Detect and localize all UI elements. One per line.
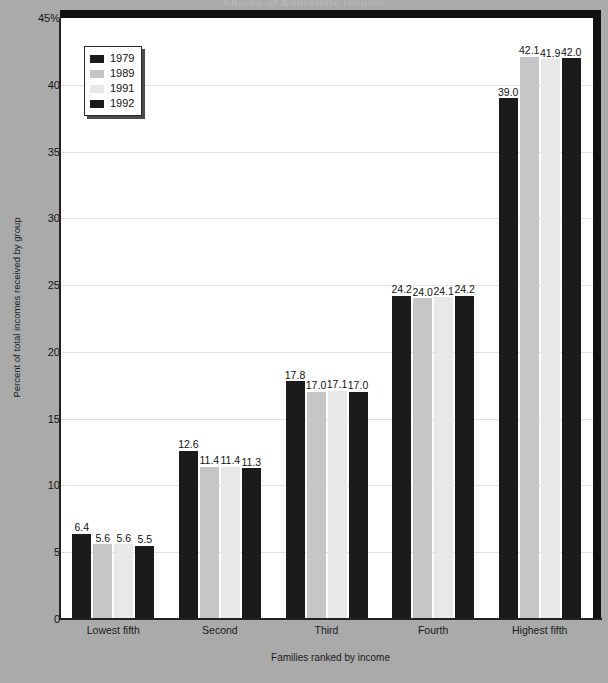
bar-value-label: 24.2 <box>391 284 411 295</box>
bar[interactable]: 11.4 <box>221 467 240 619</box>
bar[interactable]: 39.0 <box>499 98 518 619</box>
bar-group: 39.042.141.942.0 <box>499 18 581 619</box>
legend-item[interactable]: 1979 <box>90 51 134 66</box>
bar-group: 24.224.024.124.2 <box>392 18 474 619</box>
bar[interactable]: 42.1 <box>520 57 539 619</box>
bar-value-label: 24.1 <box>433 286 453 297</box>
bar[interactable]: 17.1 <box>328 391 347 619</box>
x-axis-line <box>59 618 602 620</box>
legend-label: 1991 <box>110 83 134 94</box>
x-axis-title: Families ranked by income <box>60 652 601 663</box>
legend-label: 1979 <box>110 53 134 64</box>
chart-title: Shares of Aggregate Income <box>0 0 608 6</box>
x-category-label: Highest fifth <box>512 624 567 636</box>
y-tick-label: 45% <box>38 12 60 24</box>
bar[interactable]: 42.0 <box>562 58 581 619</box>
bar-value-label: 11.4 <box>221 455 241 466</box>
legend-item[interactable]: 1991 <box>90 81 134 96</box>
bar-value-label: 5.5 <box>137 534 152 545</box>
bar-value-label: 11.4 <box>200 455 220 466</box>
bar[interactable]: 11.3 <box>242 468 261 619</box>
legend-swatch-icon <box>90 70 104 78</box>
bar-value-label: 17.0 <box>306 380 326 391</box>
bar[interactable]: 12.6 <box>179 451 198 619</box>
bar[interactable]: 24.1 <box>434 297 453 619</box>
legend-item[interactable]: 1992 <box>90 96 134 111</box>
bar-value-label: 6.4 <box>74 522 89 533</box>
bar[interactable]: 17.0 <box>307 392 326 619</box>
bar-value-label: 24.2 <box>454 284 474 295</box>
bar[interactable]: 5.6 <box>93 544 112 619</box>
legend-label: 1989 <box>110 68 134 79</box>
bar-value-label: 24.0 <box>412 287 432 298</box>
bar-value-label: 42.1 <box>519 45 539 56</box>
bar[interactable]: 17.0 <box>349 392 368 619</box>
bar[interactable]: 5.6 <box>114 544 133 619</box>
x-category-label: Lowest fifth <box>87 624 140 636</box>
legend-swatch-icon <box>90 100 104 108</box>
bar-group: 17.817.017.117.0 <box>286 18 368 619</box>
bar-group: 12.611.411.411.3 <box>179 18 261 619</box>
y-axis-title-text: Percent of total incomes received by gro… <box>11 217 22 397</box>
y-axis-title: Percent of total incomes received by gro… <box>8 0 24 615</box>
bar-value-label: 5.6 <box>116 533 131 544</box>
bar-value-label: 42.0 <box>561 47 581 58</box>
bar-value-label: 39.0 <box>498 87 518 98</box>
y-axis-tick-labels: 051015202530354045% <box>24 0 60 683</box>
bar-value-label: 17.0 <box>348 380 368 391</box>
bar[interactable]: 24.2 <box>455 296 474 619</box>
legend-swatch-icon <box>90 85 104 93</box>
legend-item[interactable]: 1989 <box>90 66 134 81</box>
bar[interactable]: 5.5 <box>135 546 154 619</box>
bar-value-label: 11.3 <box>242 457 262 468</box>
legend: 1979198919911992 <box>84 46 142 116</box>
bar-value-label: 5.6 <box>95 533 110 544</box>
bar[interactable]: 6.4 <box>72 534 91 619</box>
legend-label: 1992 <box>110 98 134 109</box>
legend-swatch-icon <box>90 55 104 63</box>
bar[interactable]: 24.2 <box>392 296 411 619</box>
x-category-label: Third <box>315 624 339 636</box>
bar-value-label: 41.9 <box>540 48 560 59</box>
bar[interactable]: 17.8 <box>286 381 305 619</box>
bar-value-label: 17.1 <box>327 379 347 390</box>
bar[interactable]: 11.4 <box>200 467 219 619</box>
bar-value-label: 17.8 <box>285 370 305 381</box>
bar-value-label: 12.6 <box>178 439 198 450</box>
bar[interactable]: 41.9 <box>541 59 560 619</box>
x-axis-category-labels: Lowest fifthSecondThirdFourthHighest fif… <box>60 624 601 642</box>
x-category-label: Second <box>202 624 238 636</box>
bar[interactable]: 24.0 <box>413 298 432 619</box>
y-axis-line <box>59 18 61 619</box>
x-category-label: Fourth <box>418 624 448 636</box>
